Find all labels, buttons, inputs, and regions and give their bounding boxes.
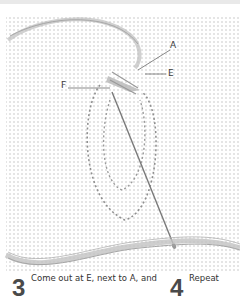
step-4-number: 4 <box>170 276 183 300</box>
label-a: A <box>170 40 176 50</box>
step-3-text: Come out at E, next to A, and <box>31 273 157 283</box>
step-captions: 3 Come out at E, next to A, and 4 Repeat <box>0 272 240 294</box>
stitch-illustration <box>0 0 240 272</box>
label-f: F <box>61 80 66 90</box>
label-e: E <box>168 68 174 78</box>
step-3-number: 3 <box>12 276 25 300</box>
fabric-mesh <box>6 16 240 272</box>
step-4-text: Repeat <box>189 273 219 283</box>
